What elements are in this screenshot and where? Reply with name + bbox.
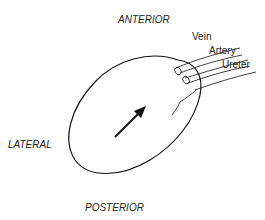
ureter-label: Ureter bbox=[222, 59, 250, 70]
ureter-vessel bbox=[172, 72, 256, 115]
lateral-label: LATERAL bbox=[8, 139, 52, 150]
kidney-diagram bbox=[0, 0, 265, 220]
artery-label: Artery bbox=[209, 45, 236, 56]
vein-label: Vein bbox=[192, 31, 211, 42]
anterior-label: ANTERIOR bbox=[118, 14, 170, 25]
posterior-label: POSTERIOR bbox=[85, 202, 144, 213]
direction-arrow bbox=[115, 106, 146, 137]
